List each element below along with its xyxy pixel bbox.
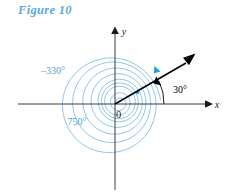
figure-container: Figure 10 — [0, 0, 228, 194]
origin-label: 0 — [116, 109, 121, 120]
coterminal-spiral-group — [62, 58, 160, 153]
x-axis-arrowhead — [205, 100, 213, 108]
negative-angle-label: –330° — [40, 65, 65, 76]
y-axis-arrowhead — [111, 27, 119, 35]
positive-angle-label: 750° — [68, 116, 87, 127]
y-axis-label: y — [121, 26, 127, 37]
reference-angle-label: 30° — [173, 84, 187, 95]
angle-diagram: x y 0 –330° 750° 30° — [0, 0, 228, 194]
reference-angle-group — [154, 77, 164, 104]
x-axis-label: x — [214, 99, 220, 110]
spiral-arrowhead-outer — [154, 66, 161, 73]
spiral-path-middle — [83, 68, 150, 134]
